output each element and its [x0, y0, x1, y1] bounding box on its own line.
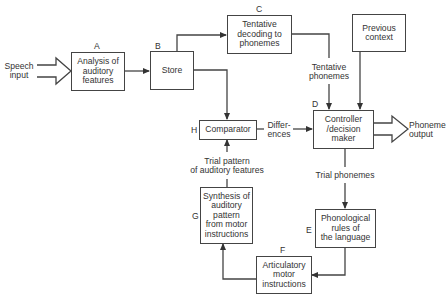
node-e-phonological-rules: Phonological rules of the language — [315, 209, 376, 248]
node-h-letter: H — [191, 125, 197, 135]
node-c-letter: C — [256, 4, 262, 14]
node-d-letter: D — [312, 99, 318, 109]
trial-pattern-label: Trial pattern of auditory features — [180, 157, 274, 176]
phoneme-output-arrow — [373, 116, 408, 142]
node-b-store: Store — [150, 51, 194, 90]
node-c-tentative-decoding: Tentative decoding to phonemes — [227, 15, 292, 54]
speech-input-label: Speech input — [2, 62, 36, 81]
node-g-letter: G — [192, 211, 199, 221]
node-a-analysis-of-auditory-features: Analysis of auditory features — [71, 52, 125, 91]
node-f-letter: F — [280, 245, 285, 255]
previous-context-box: Previous context — [352, 14, 406, 52]
node-g-synthesis: Synthesis of auditory pattern from motor… — [200, 187, 253, 244]
speech-input-arrow — [37, 58, 71, 84]
phoneme-output-label: Phoneme output — [409, 121, 448, 140]
node-d-controller-decision-maker: Controller /decision maker — [313, 110, 374, 149]
node-b-letter: B — [155, 41, 161, 51]
tentative-phonemes-label: Tentative phonemes — [306, 63, 352, 82]
differences-label: Differ- ences — [264, 121, 294, 140]
node-e-letter: E — [306, 225, 312, 235]
node-a-letter: A — [94, 41, 100, 51]
trial-phonemes-label: Trial phonemes — [314, 171, 376, 180]
node-f-articulatory-motor: Articulatory motor instructions — [256, 256, 312, 294]
node-h-comparator: Comparator — [199, 120, 257, 140]
